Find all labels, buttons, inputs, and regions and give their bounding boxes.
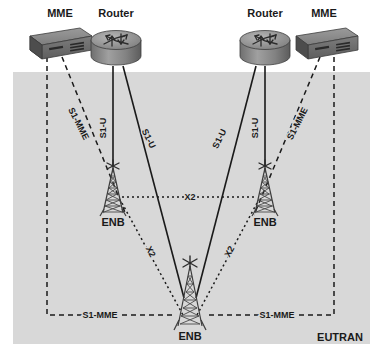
svg-text:S1-MME: S1-MME <box>259 310 294 320</box>
svg-text:S1-U: S1-U <box>250 118 260 139</box>
svg-text:S1-U: S1-U <box>98 118 108 139</box>
svg-text:X2: X2 <box>184 192 195 202</box>
node-router-left[interactable]: Router <box>91 7 141 65</box>
node-mme-right[interactable]: MME <box>296 7 358 59</box>
link-label-s1mme-right-bottom: S1-MME <box>259 310 294 320</box>
node-mme-left[interactable]: MME <box>30 7 92 59</box>
node-label-enb-left: ENB <box>101 216 124 228</box>
diagram-canvas: MME MME <box>0 0 381 363</box>
node-router-right[interactable]: Router <box>240 7 290 65</box>
link-label-s1mme-left-bottom: S1-MME <box>82 310 117 320</box>
svg-text:S1-MME: S1-MME <box>82 310 117 320</box>
node-label-mme-right: MME <box>311 7 337 19</box>
network-diagram: MME MME <box>0 0 381 363</box>
node-label-enb-center: ENB <box>178 330 201 342</box>
node-label-enb-right: ENB <box>253 216 276 228</box>
link-label-s1u-left-vertical: S1-U <box>98 118 108 139</box>
link-label-x2-horizontal: X2 <box>184 192 195 202</box>
node-label-router-left: Router <box>98 7 134 19</box>
node-label-mme-left: MME <box>47 7 73 19</box>
link-label-s1u-right-vertical: S1-U <box>250 118 260 139</box>
node-label-router-right: Router <box>247 7 283 19</box>
eutran-area-label: EUTRAN <box>317 331 363 343</box>
